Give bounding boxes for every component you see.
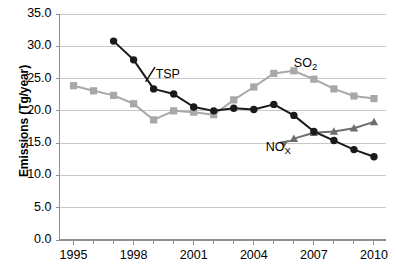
data-point-marker	[330, 137, 337, 144]
data-point-marker	[370, 153, 377, 160]
y-tick-label: 0.0	[8, 232, 52, 246]
data-point-marker	[250, 106, 257, 113]
data-point-marker	[170, 107, 177, 114]
emissions-line-chart: Emissions (Tg/year) 0.05.010.015.020.025…	[0, 0, 396, 277]
data-point-marker	[210, 107, 217, 114]
data-point-marker	[250, 83, 257, 90]
y-tick-label: 20.0	[8, 103, 52, 117]
data-point-marker	[90, 87, 97, 94]
plot-area	[0, 0, 396, 277]
data-point-marker	[310, 128, 317, 135]
data-point-marker	[150, 116, 157, 123]
series-annotation-nox: NOX	[266, 140, 291, 156]
data-point-marker	[370, 95, 377, 102]
data-point-marker	[290, 112, 297, 119]
series-annotation-subscript: 2	[312, 61, 317, 72]
data-point-marker	[370, 118, 378, 126]
series-so2	[70, 67, 378, 123]
data-point-marker	[310, 76, 317, 83]
data-point-marker	[190, 103, 197, 110]
x-tick-label: 2004	[230, 248, 278, 262]
series-annotation-so2: SO2	[294, 56, 317, 72]
y-tick-label: 5.0	[8, 200, 52, 214]
data-point-marker	[70, 82, 77, 89]
x-tick-label: 2001	[170, 248, 218, 262]
y-tick-label: 10.0	[8, 167, 52, 181]
y-tick-label: 25.0	[8, 71, 52, 85]
series-annotation-subscript: X	[285, 144, 291, 155]
series-annotation-base: NO	[266, 140, 285, 154]
series-annotation-base: SO	[294, 56, 312, 70]
x-tick-label: 2010	[350, 248, 396, 262]
data-point-marker	[350, 92, 357, 99]
data-point-marker	[330, 85, 337, 92]
data-point-marker	[130, 100, 137, 107]
data-point-marker	[150, 85, 157, 92]
data-point-marker	[110, 92, 117, 99]
data-point-marker	[170, 90, 177, 97]
data-point-marker	[230, 96, 237, 103]
data-point-marker	[130, 56, 137, 63]
data-point-marker	[350, 146, 357, 153]
x-tick-label: 1998	[110, 248, 158, 262]
data-point-marker	[230, 105, 237, 112]
tsp-leader-line	[146, 68, 155, 82]
x-tick-label: 1995	[50, 248, 98, 262]
y-tick-label: 15.0	[8, 135, 52, 149]
data-point-marker	[110, 37, 117, 44]
y-tick-label: 30.0	[8, 38, 52, 52]
series-annotation-tsp: TSP	[156, 67, 180, 81]
y-tick-label: 35.0	[8, 6, 52, 20]
data-point-marker	[270, 70, 277, 77]
data-point-marker	[270, 101, 277, 108]
x-tick-label: 2007	[290, 248, 338, 262]
series-tsp	[110, 37, 378, 160]
